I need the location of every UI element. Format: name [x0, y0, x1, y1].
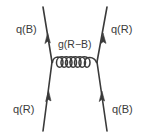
feynman-diagram: q(B) q(R) q(R) q(B) g(R−B)	[0, 0, 148, 137]
label-outgoing-right-quark: q(R)	[111, 24, 132, 35]
incoming-left-quark-arrowhead	[46, 91, 51, 102]
label-incoming-right-quark: q(B)	[112, 104, 133, 115]
outgoing-right-quark-line	[97, 7, 107, 62]
exchanged-gluon-coil-right	[70, 57, 97, 68]
outgoing-left-quark-arrowhead	[45, 33, 50, 44]
label-incoming-left-quark: q(R)	[13, 104, 34, 115]
exchanged-gluon-coil	[53, 57, 77, 68]
label-exchanged-gluon: g(R−B)	[58, 39, 92, 50]
label-outgoing-left-quark: q(B)	[16, 24, 37, 35]
diagram-canvas	[0, 0, 148, 137]
